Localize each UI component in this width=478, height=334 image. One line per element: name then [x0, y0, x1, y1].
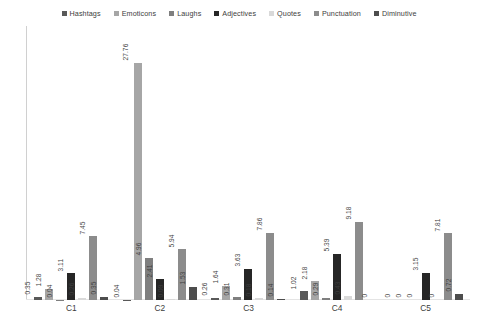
- bar-value-label: 0: [428, 294, 435, 298]
- bar-laughs-c2: 4.96: [145, 26, 153, 300]
- bar-punctuation-c5: 7.81: [444, 26, 452, 300]
- bar-rect: [211, 298, 219, 300]
- bar-punctuation-c2: 5.94: [178, 26, 186, 300]
- bar-rect: [277, 299, 285, 300]
- bar-value-label: 0.43: [335, 281, 342, 294]
- bar-quotes-c5: 0: [433, 26, 441, 300]
- bar-value-label: 5.94: [169, 234, 176, 247]
- bar-group-c3: 0.261.640.313.630.187.860.14: [204, 26, 293, 300]
- legend-label: Quotes: [277, 10, 301, 17]
- bar-laughs-c4: 0.29: [322, 26, 330, 300]
- bar-hashtags-c3: 0.26: [211, 26, 219, 300]
- plot-area: 0.351.280.043.110.267.450.350.0427.764.9…: [26, 26, 470, 300]
- bar-value-label: 5.39: [324, 239, 331, 252]
- bar-value-label: 0.04: [114, 284, 121, 297]
- legend-item-laughs[interactable]: Laughs: [169, 10, 201, 17]
- bar-quotes-c2: 0.09: [167, 26, 175, 300]
- bar-value-label: 1.02: [291, 276, 298, 289]
- bar-value-label: 0.72: [445, 279, 452, 292]
- bar-rect: [167, 299, 175, 300]
- category-label-c4: C4: [293, 304, 382, 324]
- bar-rect: [344, 296, 352, 300]
- category-label-c2: C2: [116, 304, 205, 324]
- bar-group-c5: 0003.1507.810.72: [381, 26, 470, 300]
- legend-item-emoticons[interactable]: Emoticons: [114, 10, 156, 17]
- bar-value-label: 1.64: [213, 271, 220, 284]
- bar-hashtags-c5: 0: [389, 26, 397, 300]
- legend-swatch-icon: [169, 11, 174, 16]
- legend-label: Laughs: [177, 10, 201, 17]
- bar-emoticons-c3: 1.64: [222, 26, 230, 300]
- bar-adjectives-c3: 3.63: [244, 26, 252, 300]
- bar-rect: [300, 291, 308, 300]
- bar-value-label: 7.86: [257, 218, 264, 231]
- bar-value-label: 0.26: [69, 283, 76, 296]
- legend-item-punctuation[interactable]: Punctuation: [314, 10, 361, 17]
- bar-adjectives-c1: 3.11: [67, 26, 75, 300]
- legend-item-hashtags[interactable]: Hashtags: [62, 10, 101, 17]
- category-label-c5: C5: [381, 304, 470, 324]
- bar-adjectives-c4: 5.39: [333, 26, 341, 300]
- bar-value-label: 3.63: [235, 254, 242, 267]
- bar-emoticons-c4: 2.18: [311, 26, 319, 300]
- legend-label: Punctuation: [322, 10, 361, 17]
- bar-group-c1: 0.351.280.043.110.267.450.35: [27, 26, 116, 300]
- bar-value-label: 27.76: [123, 44, 130, 61]
- legend-label: Hashtags: [70, 10, 101, 17]
- bar-groups: 0.351.280.043.110.267.450.350.0427.764.9…: [27, 26, 470, 300]
- bar-diminutive-c2: 1.53: [189, 26, 197, 300]
- category-label-c3: C3: [204, 304, 293, 324]
- bar-group-c2: 0.0427.764.962.410.095.941.53: [116, 26, 205, 300]
- bar-value-label: 7.81: [434, 218, 441, 231]
- bar-value-label: 0.29: [313, 282, 320, 295]
- bar-value-label: 2.41: [147, 264, 154, 277]
- bar-adjectives-c5: 3.15: [422, 26, 430, 300]
- bar-value-label: 0.18: [246, 283, 253, 296]
- bar-rect: [355, 222, 363, 301]
- bar-value-label: 1.28: [36, 274, 43, 287]
- legend-label: Diminutive: [382, 10, 417, 17]
- legend-item-quotes[interactable]: Quotes: [269, 10, 301, 17]
- bar-value-label: 4.96: [136, 242, 143, 255]
- bar-rect: [189, 287, 197, 300]
- bar-diminutive-c4: 0: [366, 26, 374, 300]
- bar-quotes-c1: 0.26: [78, 26, 86, 300]
- bar-value-label: 1.53: [180, 272, 187, 285]
- bar-hashtags-c4: 1.02: [300, 26, 308, 300]
- bar-diminutive-c5: 0.72: [455, 26, 463, 300]
- legend-label: Emoticons: [122, 10, 156, 17]
- bar-hashtags-c2: 0.04: [123, 26, 131, 300]
- legend-swatch-icon: [374, 11, 379, 16]
- bar-rect: [78, 298, 86, 300]
- legend-swatch-icon: [114, 11, 119, 16]
- legend-swatch-icon: [62, 11, 67, 16]
- bar-rect: [134, 63, 142, 300]
- bar-value-label: 0: [406, 294, 413, 298]
- bar-hashtags-c1: 0.35: [34, 26, 42, 300]
- bar-value-label: 0: [395, 294, 402, 298]
- bar-value-label: 0.31: [224, 282, 231, 295]
- bar-emoticons-c1: 1.28: [45, 26, 53, 300]
- legend-item-adjectives[interactable]: Adjectives: [214, 10, 256, 17]
- bar-value-label: 3.15: [412, 258, 419, 271]
- bar-chart: HashtagsEmoticonsLaughsAdjectivesQuotesP…: [0, 0, 478, 334]
- bar-quotes-c4: 0.43: [344, 26, 352, 300]
- bar-value-label: 2.18: [302, 266, 309, 279]
- bar-value-label: 0.35: [25, 282, 32, 295]
- bar-value-label: 0: [384, 294, 391, 298]
- bar-quotes-c3: 0.18: [255, 26, 263, 300]
- bar-value-label: 7.45: [80, 221, 87, 234]
- bar-diminutive-c3: 0.14: [277, 26, 285, 300]
- bar-group-c4: 1.022.180.295.390.439.180: [293, 26, 382, 300]
- bar-value-label: 0.35: [91, 282, 98, 295]
- category-label-c1: C1: [27, 304, 116, 324]
- legend-item-diminutive[interactable]: Diminutive: [374, 10, 417, 17]
- chart-legend: HashtagsEmoticonsLaughsAdjectivesQuotesP…: [0, 10, 478, 17]
- bar-punctuation-c1: 7.45: [89, 26, 97, 300]
- bar-rect: [322, 298, 330, 300]
- bar-value-label: 0.09: [158, 284, 165, 297]
- legend-swatch-icon: [214, 11, 219, 16]
- bar-punctuation-c3: 7.86: [266, 26, 274, 300]
- legend-swatch-icon: [314, 11, 319, 16]
- bar-punctuation-c4: 9.18: [355, 26, 363, 300]
